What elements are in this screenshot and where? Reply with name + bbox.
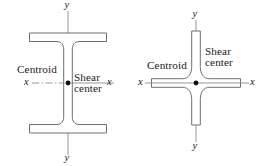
cruciform-y-axis-top-label: y xyxy=(193,9,198,20)
i-beam-shear-center-label-line2: center xyxy=(74,83,102,94)
i-beam-shear-center-label: Shear center xyxy=(74,72,102,95)
cruciform-panel xyxy=(145,20,249,142)
cruciform-shear-center-label: Shear center xyxy=(205,46,233,69)
i-beam-x-axis-right-label: x xyxy=(107,77,112,88)
figure-canvas xyxy=(0,0,268,166)
cruciform-x-axis-left-label: x xyxy=(138,77,143,88)
cruciform-centroid-shear-center-point xyxy=(194,81,199,86)
cruciform-y-axis-bottom-label: y xyxy=(193,141,198,152)
cruciform-x-axis-right-label: x xyxy=(250,77,255,88)
i-beam-centroid-shear-center-point xyxy=(66,81,71,86)
i-beam-centroid-label: Centroid xyxy=(17,64,57,75)
cruciform-centroid-label: Centroid xyxy=(147,60,187,71)
i-beam-y-axis-bottom-label: y xyxy=(65,153,70,164)
i-beam-x-axis-left-label: x xyxy=(24,77,29,88)
i-beam-y-axis-top-label: y xyxy=(65,0,70,11)
cruciform-shear-center-label-line2: center xyxy=(205,57,233,68)
shear-center-figure: Centroid Shear center x x y y Centroid S… xyxy=(0,0,268,166)
